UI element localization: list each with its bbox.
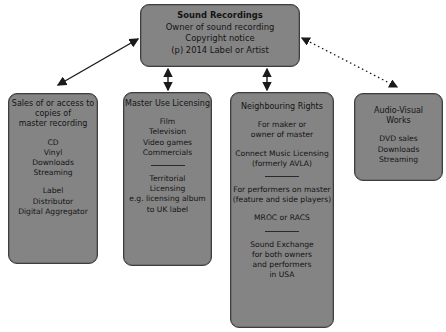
sales-item: Distributor: [9, 197, 97, 207]
sales-box: Sales of or access to copies of master r…: [8, 93, 98, 264]
neighbouring-item: owner of master: [231, 130, 333, 140]
audio-visual-works-box: Audio-Visual Works DVD sales Downloads S…: [354, 93, 443, 181]
master-title: Master Use Licensing: [124, 99, 211, 109]
master-item: Television: [124, 127, 211, 137]
neighbouring-title: Neighbouring Rights: [231, 102, 333, 112]
master-item: Film: [124, 117, 211, 127]
master-item: Commercials: [124, 148, 211, 158]
divider: [151, 165, 185, 166]
master-item: Video games: [124, 138, 211, 148]
sales-item: CD: [9, 138, 97, 148]
neighbouring-item: (formerly AVLA): [231, 159, 333, 169]
sales-title: master recording: [9, 119, 97, 129]
master-item: Licensing: [124, 184, 211, 194]
divider: [265, 176, 299, 177]
neighbouring-item: For performers on master: [231, 185, 333, 195]
root-line: Owner of sound recording: [141, 22, 299, 34]
sales-title: Sales of or access to: [9, 99, 97, 109]
neighbouring-rights-box: Neighbouring Rights For maker or owner o…: [230, 92, 334, 328]
sales-title: copies of: [9, 109, 97, 119]
audiovisual-title: Audio-Visual: [355, 106, 442, 116]
sales-item: Streaming: [9, 168, 97, 178]
root-line: Copyright notice: [141, 33, 299, 45]
divider: [265, 231, 299, 232]
neighbouring-item: Connect Music Licensing: [231, 149, 333, 159]
sales-item: Downloads: [9, 158, 97, 168]
sales-item: Vinyl: [9, 148, 97, 158]
neighbouring-item: Sound Exchange: [231, 240, 333, 250]
root-line: (p) 2014 Label or Artist: [141, 45, 299, 57]
neighbouring-item: (feature and side players): [231, 195, 333, 205]
master-item: Territorial: [124, 174, 211, 184]
master-item: e.g. licensing album: [124, 194, 211, 204]
neighbouring-item: and performers: [231, 260, 333, 270]
root-title: Sound Recordings: [141, 10, 299, 22]
neighbouring-item: in USA: [231, 270, 333, 280]
audiovisual-title: Works: [355, 116, 442, 126]
sound-recordings-box: Sound Recordings Owner of sound recordin…: [140, 4, 300, 67]
arrow-root-to-audiovisual: [302, 38, 397, 87]
sales-item: Label: [9, 186, 97, 196]
arrow-root-to-sales: [58, 39, 138, 85]
audiovisual-item: DVD sales: [355, 134, 442, 144]
master-item: to UK label: [124, 205, 211, 215]
neighbouring-item: MROC or RACS: [231, 213, 333, 223]
sales-item: Digital Aggregator: [9, 207, 97, 217]
audiovisual-item: Downloads: [355, 145, 442, 155]
master-use-licensing-box: Master Use Licensing Film Television Vid…: [123, 92, 212, 266]
audiovisual-item: Streaming: [355, 155, 442, 165]
neighbouring-item: for both owners: [231, 250, 333, 260]
neighbouring-item: For maker or: [231, 120, 333, 130]
